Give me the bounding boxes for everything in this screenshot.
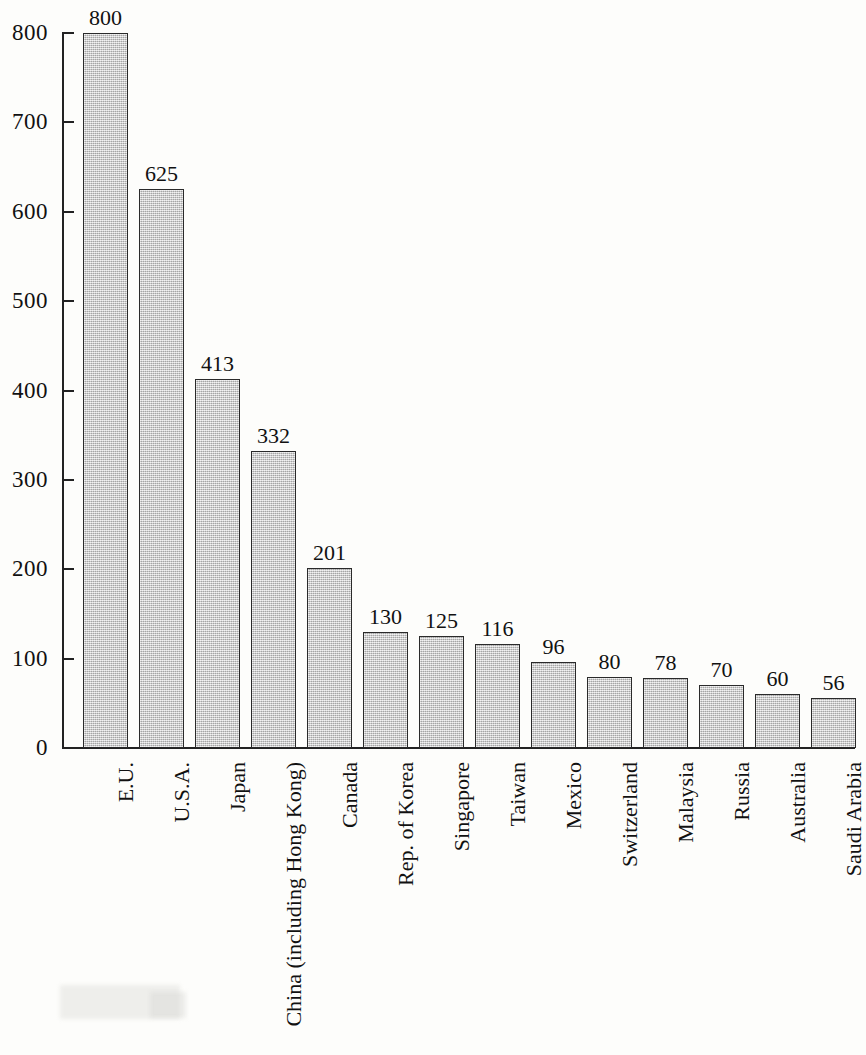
bar[interactable] bbox=[139, 189, 184, 748]
category-label: Australia bbox=[787, 762, 809, 843]
category-label: Russia bbox=[731, 762, 753, 821]
bar[interactable] bbox=[643, 678, 688, 748]
category-label-text: Singapore bbox=[451, 762, 473, 851]
bars-layer: 800625413332201130125116968078706056 bbox=[0, 0, 860, 760]
category-label: Mexico bbox=[563, 762, 585, 829]
bar[interactable] bbox=[419, 636, 464, 748]
bar-value-label: 625 bbox=[125, 163, 198, 185]
category-label: China (including Hong Kong) bbox=[283, 762, 305, 1027]
category-label-text: Malaysia bbox=[675, 762, 697, 843]
bar[interactable] bbox=[251, 451, 296, 748]
category-label-text: Saudi Arabia bbox=[843, 762, 865, 876]
bar-value-label: 56 bbox=[797, 672, 866, 694]
plot-area: 0100200300400500600700800 80062541333220… bbox=[0, 0, 860, 760]
category-label: Singapore bbox=[451, 762, 473, 851]
category-label-text: Japan bbox=[227, 762, 249, 812]
category-label-text: Rep. of Korea bbox=[395, 762, 417, 886]
category-label-text: Canada bbox=[339, 762, 361, 828]
bar[interactable] bbox=[195, 379, 240, 748]
category-label: Saudi Arabia bbox=[843, 762, 865, 876]
bar[interactable] bbox=[587, 677, 632, 749]
category-label-text: E.U. bbox=[115, 762, 137, 802]
bar-value-label: 800 bbox=[69, 7, 142, 29]
category-label-text: China (including Hong Kong) bbox=[283, 762, 305, 1027]
category-label: Rep. of Korea bbox=[395, 762, 417, 886]
category-label: Switzerland bbox=[619, 762, 641, 867]
category-label: U.S.A. bbox=[171, 762, 193, 823]
category-label-text: Australia bbox=[787, 762, 809, 843]
category-label: Canada bbox=[339, 762, 361, 828]
category-label: Malaysia bbox=[675, 762, 697, 843]
bar-value-label: 201 bbox=[293, 542, 366, 564]
category-label-text: Russia bbox=[731, 762, 753, 821]
bar[interactable] bbox=[475, 644, 520, 748]
bar[interactable] bbox=[531, 662, 576, 748]
category-label: E.U. bbox=[115, 762, 137, 802]
bar-value-label: 413 bbox=[181, 353, 254, 375]
bar[interactable] bbox=[83, 33, 128, 748]
bar[interactable] bbox=[811, 698, 856, 748]
bar[interactable] bbox=[307, 568, 352, 748]
bar[interactable] bbox=[699, 685, 744, 748]
category-label: Japan bbox=[227, 762, 249, 812]
category-label: Taiwan bbox=[507, 762, 529, 826]
bar[interactable] bbox=[363, 632, 408, 748]
bar-value-label: 332 bbox=[237, 425, 310, 447]
category-label-text: Mexico bbox=[563, 762, 585, 829]
scan-artifact bbox=[150, 992, 186, 1018]
category-label-text: Taiwan bbox=[507, 762, 529, 826]
category-label-text: U.S.A. bbox=[171, 762, 193, 823]
category-label-text: Switzerland bbox=[619, 762, 641, 867]
bar[interactable] bbox=[755, 694, 800, 748]
